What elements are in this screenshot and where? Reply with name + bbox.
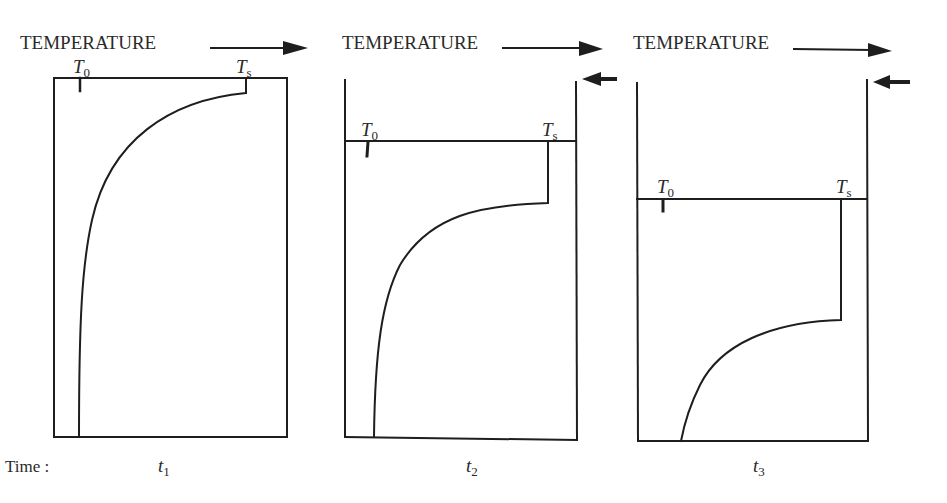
temperature-profile-curve (374, 141, 548, 437)
ts-label: Ts (542, 119, 558, 143)
time-t2-label: t2 (466, 455, 478, 479)
solid-slab-box (54, 78, 287, 437)
panel-t3: TEMPERATURE T0 Ts t3 (633, 32, 908, 479)
slab-right-wall (576, 82, 577, 440)
t0-label: T0 (657, 176, 674, 200)
panel-t2: TEMPERATURE T0 Ts t2 (342, 32, 615, 479)
panel-t1: TEMPERATURE T0 Ts Time : t1 (5, 32, 308, 479)
surface-recession-arrow-icon (582, 72, 615, 86)
t0-label: T0 (361, 119, 378, 143)
temperature-profile-diagram: TEMPERATURE T0 Ts Time : t1 TEMPERATURE … (0, 0, 947, 503)
t0-tick (367, 142, 368, 156)
temperature-axis-label: TEMPERATURE (342, 32, 478, 53)
time-label: Time : (5, 457, 49, 476)
slab-bottom (345, 437, 577, 440)
slab-left-wall (637, 83, 638, 441)
t0-label: T0 (73, 56, 90, 80)
temperature-axis-arrow-icon (503, 41, 603, 56)
temperature-axis-arrow-icon (211, 41, 308, 55)
ts-label: Ts (236, 56, 252, 80)
temperature-axis-arrow-icon (794, 43, 892, 57)
time-t1-label: t1 (158, 455, 170, 479)
temperature-profile-curve (79, 78, 246, 437)
ts-label: Ts (836, 176, 852, 200)
time-t3-label: t3 (753, 455, 765, 479)
temperature-profile-curve (681, 199, 841, 441)
surface-recession-arrow-icon (873, 75, 908, 89)
slab-right-wall (867, 80, 868, 441)
temperature-axis-label: TEMPERATURE (633, 32, 769, 53)
temperature-axis-label: TEMPERATURE (20, 32, 156, 53)
